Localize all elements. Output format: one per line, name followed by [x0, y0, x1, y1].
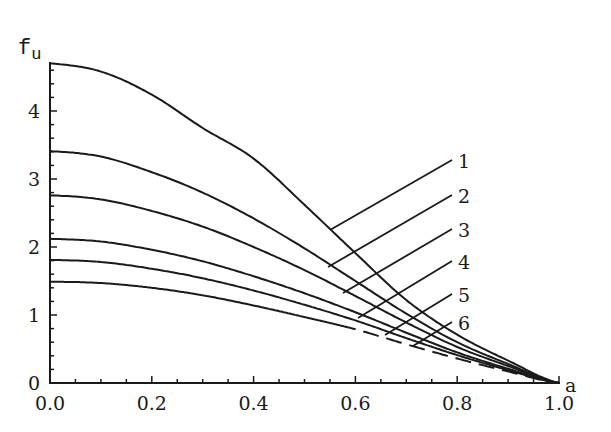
- leader-line-1: [330, 160, 452, 230]
- x-tick-label: 0.2: [137, 392, 167, 414]
- leader-line-3: [343, 229, 452, 293]
- curve-1: [50, 63, 559, 383]
- curve-labels-group: 123456: [458, 150, 470, 334]
- x-tick-label: 0.4: [238, 392, 268, 414]
- curve-3: [50, 195, 559, 383]
- curve-6: [50, 282, 340, 326]
- y-tick-label: 3: [28, 168, 40, 190]
- y-axis-title: fu: [18, 36, 41, 64]
- curve-4: [50, 239, 559, 383]
- curve-label-1: 1: [458, 150, 470, 172]
- curve-label-5: 5: [458, 284, 470, 306]
- x-tick-label: 0.8: [442, 392, 472, 414]
- x-tick-label: 0.6: [340, 392, 370, 414]
- x-tick-label: 0.0: [35, 392, 65, 414]
- ticks-group: [50, 70, 559, 383]
- curves-group: [50, 63, 559, 383]
- chart: 0.00.20.40.60.81.001234 fu a 123456: [0, 0, 611, 432]
- curve-label-2: 2: [458, 185, 470, 207]
- x-axis-title: a: [565, 374, 576, 396]
- y-tick-label: 0: [28, 372, 40, 394]
- leader-line-2: [328, 195, 452, 267]
- curve-label-6: 6: [458, 312, 470, 334]
- curve-label-3: 3: [458, 219, 470, 241]
- y-tick-label: 4: [28, 100, 40, 122]
- y-tick-label: 1: [28, 304, 40, 326]
- axes-group: [49, 62, 560, 384]
- curve-label-4: 4: [458, 251, 470, 273]
- y-tick-label: 2: [28, 236, 40, 258]
